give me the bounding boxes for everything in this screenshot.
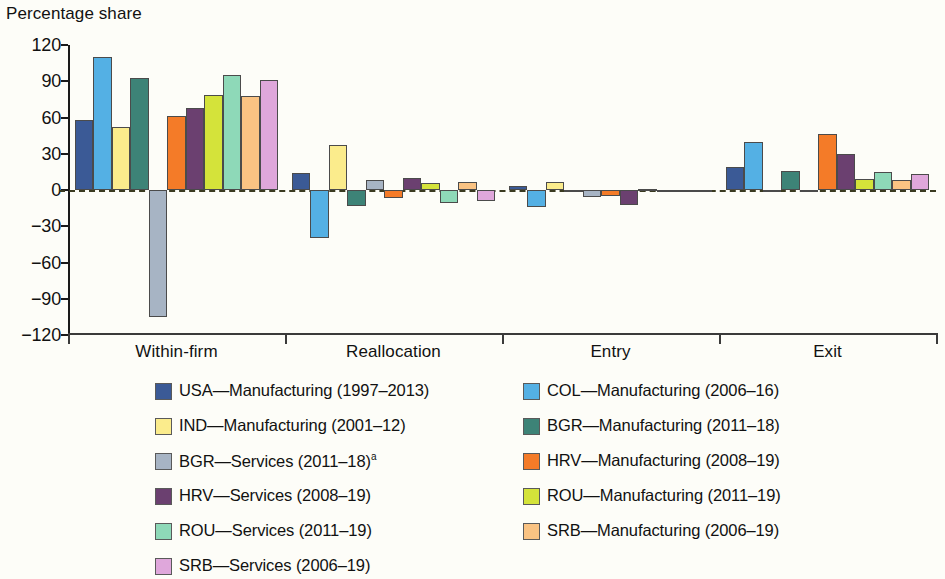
y-tick-mark	[61, 262, 68, 264]
bar	[149, 190, 168, 317]
legend-item-label: SRB—Services (2006–19)	[179, 556, 370, 575]
bar	[440, 190, 459, 203]
y-tick-label: −60	[31, 252, 61, 273]
bar	[260, 80, 279, 190]
bar	[694, 190, 713, 192]
y-tick-label: −120	[21, 325, 61, 346]
bar	[241, 96, 260, 190]
y-tick-mark	[61, 117, 68, 119]
bar	[855, 179, 874, 190]
bar	[911, 174, 930, 190]
y-tick-mark	[61, 225, 68, 227]
bar	[763, 190, 782, 192]
legend-item[interactable]: SRB—Manufacturing (2006–19)	[523, 521, 779, 540]
chart-legend: USA—Manufacturing (1997–2013)IND—Manufac…	[155, 381, 945, 571]
plot-area: 1209060300−30−60−90−120	[68, 45, 936, 335]
legend-color-swatch	[523, 523, 540, 540]
bar	[204, 95, 223, 190]
bar	[546, 182, 565, 190]
bar	[458, 182, 477, 190]
bar	[818, 134, 837, 190]
legend-item[interactable]: HRV—Manufacturing (2008–19)	[523, 451, 780, 470]
legend-item-label: BGR—Manufacturing (2011–18)	[547, 416, 780, 435]
bar	[366, 180, 385, 190]
legend-item-label: USA—Manufacturing (1997–2013)	[179, 381, 429, 400]
bar	[329, 145, 348, 190]
x-axis-category-label: Exit	[719, 342, 936, 362]
x-axis-category-label: Reallocation	[285, 342, 502, 362]
legend-color-swatch	[155, 383, 172, 400]
x-axis-group-separator	[936, 335, 938, 344]
legend-color-swatch	[523, 418, 540, 435]
bar	[564, 190, 583, 192]
bar	[601, 190, 620, 196]
legend-color-swatch	[155, 523, 172, 540]
bar	[837, 154, 856, 190]
legend-color-swatch	[155, 418, 172, 435]
bar	[657, 190, 676, 192]
legend-item-label: COL—Manufacturing (2006–16)	[547, 381, 779, 400]
legend-item[interactable]: BGR—Manufacturing (2011–18)	[523, 416, 780, 435]
y-tick-mark	[61, 153, 68, 155]
bar	[638, 189, 657, 191]
legend-item[interactable]: ROU—Services (2011–19)	[155, 521, 372, 540]
y-axis-title: Percentage share	[6, 4, 142, 24]
bar	[874, 172, 893, 190]
legend-item[interactable]: IND—Manufacturing (2001–12)	[155, 416, 406, 435]
legend-item[interactable]: ROU—Manufacturing (2011–19)	[523, 486, 781, 505]
bar	[384, 190, 403, 198]
bar	[892, 180, 911, 190]
legend-item[interactable]: USA—Manufacturing (1997–2013)	[155, 381, 429, 400]
bar	[726, 167, 745, 190]
legend-color-swatch	[155, 453, 172, 470]
legend-item-label: HRV—Services (2008–19)	[179, 486, 371, 505]
legend-item-label: BGR—Services (2011–18)a	[179, 451, 376, 471]
y-tick-mark	[61, 298, 68, 300]
bar-chart-figure: Percentage share 1209060300−30−60−90−120…	[0, 0, 945, 579]
y-tick-label: 30	[41, 143, 61, 164]
legend-color-swatch	[523, 383, 540, 400]
legend-color-swatch	[523, 453, 540, 470]
legend-color-swatch	[155, 558, 172, 575]
bar	[509, 186, 528, 190]
bar	[112, 127, 131, 190]
x-axis-category-label: Entry	[502, 342, 719, 362]
legend-item[interactable]: BGR—Services (2011–18)a	[155, 451, 376, 471]
legend-color-swatch	[155, 488, 172, 505]
y-tick-mark	[61, 334, 68, 336]
bar	[421, 183, 440, 190]
y-tick-label: −90	[31, 288, 61, 309]
bar	[130, 78, 149, 190]
legend-color-swatch	[523, 488, 540, 505]
legend-item-label: ROU—Manufacturing (2011–19)	[547, 486, 781, 505]
bar	[675, 190, 694, 192]
bar	[93, 57, 112, 190]
bar	[186, 108, 205, 190]
bar	[477, 190, 496, 201]
bar	[347, 190, 366, 206]
legend-item-label: SRB—Manufacturing (2006–19)	[547, 521, 779, 540]
legend-item[interactable]: HRV—Services (2008–19)	[155, 486, 371, 505]
legend-item[interactable]: COL—Manufacturing (2006–16)	[523, 381, 779, 400]
bar	[744, 142, 763, 190]
bar	[403, 178, 422, 190]
bar	[527, 190, 546, 207]
legend-item-label: ROU—Services (2011–19)	[179, 521, 372, 540]
legend-item-label: HRV—Manufacturing (2008–19)	[547, 451, 780, 470]
bar	[781, 171, 800, 190]
x-axis-category-label: Within-firm	[68, 342, 285, 362]
bar	[583, 190, 602, 197]
y-tick-mark	[61, 80, 68, 82]
bar	[292, 173, 311, 190]
bar	[620, 190, 639, 205]
y-tick-label: 90	[41, 71, 61, 92]
legend-footnote-marker: a	[371, 451, 376, 462]
y-tick-label: 60	[41, 107, 61, 128]
y-tick-mark	[61, 44, 68, 46]
bar	[800, 190, 819, 192]
legend-item-label: IND—Manufacturing (2001–12)	[179, 416, 406, 435]
bar	[75, 120, 94, 190]
legend-item[interactable]: SRB—Services (2006–19)	[155, 556, 370, 575]
bar	[310, 190, 329, 238]
bar	[167, 116, 186, 190]
